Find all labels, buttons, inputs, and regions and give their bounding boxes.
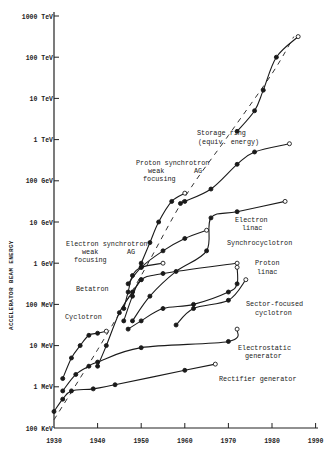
data-point xyxy=(287,142,291,146)
curve-label: Electron synchrotron xyxy=(66,240,148,248)
data-point xyxy=(213,362,217,366)
data-point xyxy=(192,307,196,311)
curve-label: Sector-focused xyxy=(246,300,303,308)
data-point xyxy=(274,55,278,59)
curve-label: Proton xyxy=(255,259,279,267)
data-point xyxy=(209,187,213,191)
curve-label: weak xyxy=(82,248,98,256)
y-tick-label: 10 GeV xyxy=(30,220,54,227)
curve-label: cyclotron xyxy=(255,309,292,317)
data-point xyxy=(209,216,213,220)
data-point xyxy=(205,249,209,253)
series-rectifier-generator xyxy=(52,362,217,413)
x-tick-label: 1970 xyxy=(221,438,237,445)
data-point xyxy=(117,311,121,315)
curve-label: Synchrocyclotron xyxy=(227,239,292,247)
curve-label: focusing xyxy=(74,256,107,264)
data-point xyxy=(87,333,91,337)
data-point xyxy=(130,294,134,298)
data-point xyxy=(183,368,187,372)
data-point xyxy=(126,327,130,331)
data-point xyxy=(139,278,143,282)
x-tick-label: 1950 xyxy=(133,438,149,445)
data-point xyxy=(139,261,143,265)
data-point xyxy=(244,278,248,282)
data-point xyxy=(69,389,73,393)
data-point xyxy=(87,364,91,368)
data-point xyxy=(148,241,152,245)
curve-label: focusing xyxy=(143,175,176,183)
data-point xyxy=(161,249,165,253)
series-synchrocyclotron xyxy=(122,261,239,323)
data-point xyxy=(61,377,65,381)
data-point xyxy=(113,383,117,387)
curve-label: Cyclotron xyxy=(65,313,102,321)
curve-label: linac xyxy=(242,224,262,232)
x-tick-label: 1990 xyxy=(308,438,324,445)
data-point xyxy=(122,319,126,323)
data-point xyxy=(78,344,82,348)
data-point xyxy=(235,210,239,214)
data-point xyxy=(178,201,182,205)
data-point xyxy=(235,327,239,331)
data-point xyxy=(235,265,239,269)
series-electron-synchrotron-ag xyxy=(126,228,208,286)
data-point xyxy=(161,307,165,311)
series-proton-linac xyxy=(126,265,239,331)
data-point xyxy=(52,410,56,414)
y-tick-label: 1 MeV xyxy=(33,384,53,391)
y-tick-label: 1000 TeV xyxy=(22,14,53,21)
data-point xyxy=(226,290,230,294)
data-point xyxy=(69,356,73,360)
data-point xyxy=(148,294,152,298)
data-point xyxy=(235,162,239,166)
data-point xyxy=(253,109,257,113)
x-tick-label: 1930 xyxy=(46,438,62,445)
data-point xyxy=(174,269,178,273)
data-point xyxy=(74,372,78,376)
series-storage-ring-equiv-energy xyxy=(235,35,300,134)
data-point xyxy=(253,150,257,154)
series-cyclotron xyxy=(61,329,109,380)
data-point xyxy=(130,319,134,323)
curve-label: Electron xyxy=(235,216,268,224)
data-point xyxy=(183,199,187,203)
y-tick-label: 100 MeV xyxy=(26,302,53,309)
curve-label: Betatron xyxy=(76,285,109,293)
data-point xyxy=(296,35,300,39)
x-tick-label: 1980 xyxy=(264,438,280,445)
data-point xyxy=(170,199,174,203)
y-tick-label: 10 MeV xyxy=(30,343,54,350)
data-point xyxy=(139,319,143,323)
y-tick-label: 1 TeV xyxy=(33,137,53,144)
curve-label: Proton synchrotron xyxy=(136,159,209,167)
data-point xyxy=(226,339,230,343)
data-point xyxy=(91,387,95,391)
data-point xyxy=(139,265,143,269)
data-point xyxy=(96,364,100,368)
data-point xyxy=(139,346,143,350)
data-point xyxy=(126,290,130,294)
data-point xyxy=(192,302,196,306)
y-tick-label: 100 TeV xyxy=(26,55,53,62)
livingston-plot: 1930194019501960197019801990100 KeV1 MeV… xyxy=(0,0,333,457)
curve-label: weak xyxy=(148,167,164,175)
y-tick-label: 100 KeV xyxy=(26,426,53,433)
data-point xyxy=(96,331,100,335)
data-point xyxy=(261,88,265,92)
curve-label: AG xyxy=(194,167,202,175)
data-point xyxy=(161,261,165,265)
curve-label: Rectifier generator xyxy=(219,375,297,383)
data-point xyxy=(122,307,126,311)
data-point xyxy=(205,228,209,232)
data-point xyxy=(235,261,239,265)
data-point xyxy=(283,199,287,203)
curve-label: Electrostatic xyxy=(238,344,291,352)
curve-label: (equiv. energy) xyxy=(198,138,259,146)
curve-label: AG xyxy=(127,248,135,256)
data-point xyxy=(104,329,108,333)
data-point xyxy=(104,344,108,348)
data-point xyxy=(157,220,161,224)
data-point xyxy=(183,236,187,240)
y-tick-label: 100 GeV xyxy=(26,178,53,185)
